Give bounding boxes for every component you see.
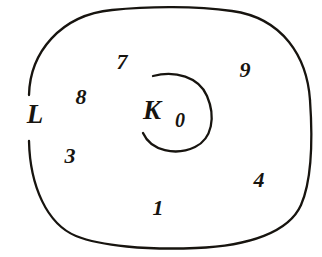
element-label: 7 [117,51,128,73]
element-label: 8 [76,86,87,108]
outer-set-boundary [29,7,311,248]
outer-boundary-upper-arc [29,7,310,100]
element-label: 3 [65,145,76,167]
element-label: 9 [240,59,251,81]
element-label: 1 [153,197,164,219]
set-diagram: L K 7 9 8 0 3 4 1 [0,0,322,257]
element-label: 0 [175,110,185,130]
set-label-outer: L [27,101,44,128]
set-label-inner: K [143,97,161,124]
outer-boundary-lower-arc [29,100,311,249]
element-label: 4 [254,169,265,191]
